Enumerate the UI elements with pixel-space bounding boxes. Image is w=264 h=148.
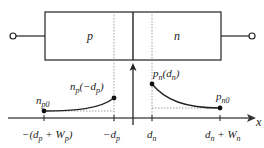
n-region-label: n [174, 29, 180, 43]
np0-point [42, 109, 47, 114]
pn0-point [218, 106, 223, 111]
label-np-edge: np(−dp) [70, 80, 104, 95]
tick-label-4: dn + Wn [205, 128, 241, 143]
right-terminal [249, 33, 255, 39]
diagram-canvas: x p n np0 np(−dp) pn(dn) pn0 −(dp + Wp) … [0, 0, 264, 148]
pn-edge-point [150, 82, 155, 87]
tick-label-3: dn [147, 128, 157, 143]
label-pn0: pn0 [215, 90, 230, 105]
left-terminal [10, 33, 16, 39]
p-region-label: p [86, 29, 93, 43]
tick-label-2: −dp [103, 128, 120, 143]
np-edge-point [112, 96, 117, 101]
axis-label-x: x [255, 115, 262, 129]
label-np0: np0 [36, 94, 50, 109]
pn-junction-diagram: x p n np0 np(−dp) pn(dn) pn0 −(dp + Wp) … [0, 0, 264, 148]
hole-profile-curve [152, 84, 220, 108]
tick-label-1: −(dp + Wp) [22, 128, 73, 143]
label-pn-edge: pn(dn) [152, 67, 180, 82]
electron-profile-curve [44, 98, 114, 111]
